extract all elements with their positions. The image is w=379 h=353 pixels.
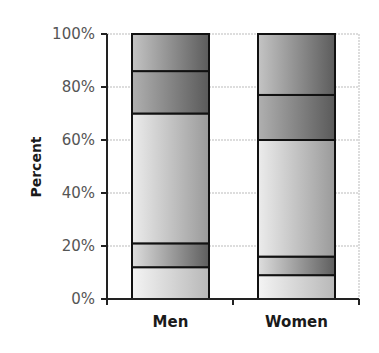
bar-women <box>258 34 335 299</box>
bar-segment <box>258 95 335 140</box>
bar-segment <box>258 275 335 299</box>
x-category-label: Women <box>265 313 328 331</box>
y-tick-label: 100% <box>52 25 95 43</box>
y-tick-label: 0% <box>71 290 95 308</box>
bar-segment <box>258 257 335 276</box>
bar-segment <box>132 114 209 244</box>
y-tick-label: 80% <box>62 78 95 96</box>
y-tick-label: 20% <box>62 237 95 255</box>
y-tick-label: 40% <box>62 184 95 202</box>
y-axis-title: Percent <box>28 136 44 197</box>
y-tick-label: 60% <box>62 131 95 149</box>
bars <box>132 34 335 299</box>
bar-segment <box>258 34 335 95</box>
stacked-percent-bar-chart: 0%20%40%60%80%100%MenWomen Percent <box>0 0 379 353</box>
bar-segment <box>258 140 335 257</box>
bar-segment <box>132 267 209 299</box>
bar-segment <box>132 34 209 71</box>
x-category-label: Men <box>153 313 189 331</box>
bar-segment <box>132 243 209 267</box>
bar-segment <box>132 71 209 113</box>
bar-men <box>132 34 209 299</box>
